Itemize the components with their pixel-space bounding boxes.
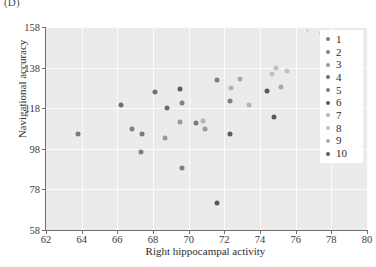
legend-item-label: 5 xyxy=(336,85,342,96)
legend-marker-icon xyxy=(326,101,330,105)
data-point xyxy=(200,119,205,124)
legend: 12345678910 xyxy=(320,30,363,163)
legend-item-label: 1 xyxy=(336,34,342,45)
data-point xyxy=(279,84,284,89)
legend-item-label: 10 xyxy=(336,148,347,159)
gridline-vertical xyxy=(260,27,261,230)
panel-label: (D) xyxy=(4,0,20,8)
data-point xyxy=(76,131,81,136)
data-point xyxy=(272,115,277,120)
data-point xyxy=(229,85,234,90)
legend-item-label: 7 xyxy=(336,110,342,121)
y-axis-tick xyxy=(42,230,46,231)
data-point xyxy=(284,68,289,73)
stray-speck xyxy=(306,29,309,32)
data-point xyxy=(138,149,143,154)
x-axis-tick-label: 72 xyxy=(219,234,230,245)
x-axis-tick-label: 64 xyxy=(76,234,87,245)
x-axis-title: Right hippocampal activity xyxy=(45,245,366,257)
gridline-vertical xyxy=(189,27,190,230)
x-axis-tick-label: 78 xyxy=(326,234,337,245)
y-axis-tick-label: 98 xyxy=(30,143,41,154)
legend-marker-icon xyxy=(326,88,330,92)
data-point xyxy=(140,131,145,136)
gridline-horizontal xyxy=(46,68,367,69)
legend-item[interactable]: 4 xyxy=(323,71,361,84)
legend-item-label: 8 xyxy=(336,123,342,134)
legend-item[interactable]: 1 xyxy=(323,33,361,46)
data-point xyxy=(227,131,232,136)
gridline-vertical xyxy=(224,27,225,230)
y-axis-tick xyxy=(42,189,46,190)
y-axis-title: Navigational accuracy xyxy=(16,9,28,169)
scatter-plot-figure: (D) 62646668707274767880587898118138158 … xyxy=(0,0,376,267)
data-point xyxy=(247,103,252,108)
legend-item[interactable]: 8 xyxy=(323,122,361,135)
data-point xyxy=(215,77,220,82)
legend-item[interactable]: 9 xyxy=(323,135,361,148)
legend-item[interactable]: 6 xyxy=(323,96,361,109)
data-point xyxy=(118,103,123,108)
y-axis-tick xyxy=(42,68,46,69)
legend-marker-icon xyxy=(326,113,330,117)
data-point xyxy=(274,65,279,70)
data-point xyxy=(163,135,168,140)
legend-marker-icon xyxy=(326,50,330,54)
x-axis-tick-label: 74 xyxy=(255,234,266,245)
x-axis-tick-label: 70 xyxy=(183,234,194,245)
data-point xyxy=(152,89,157,94)
gridline-vertical xyxy=(117,27,118,230)
x-axis-tick-label: 68 xyxy=(148,234,159,245)
data-point xyxy=(177,120,182,125)
data-point xyxy=(270,71,275,76)
y-axis-tick xyxy=(42,27,46,28)
legend-item-label: 4 xyxy=(336,72,342,83)
legend-marker-icon xyxy=(326,75,330,79)
legend-marker-icon xyxy=(326,63,330,67)
legend-marker-icon xyxy=(326,37,330,41)
gridline-horizontal xyxy=(46,149,367,150)
legend-item[interactable]: 10 xyxy=(323,147,361,160)
data-point xyxy=(215,200,220,205)
plot-area: 62646668707274767880587898118138158 xyxy=(45,27,367,231)
legend-item-label: 9 xyxy=(336,135,342,146)
data-point xyxy=(177,86,182,91)
legend-item[interactable]: 5 xyxy=(323,84,361,97)
y-axis-tick xyxy=(42,108,46,109)
x-axis-tick-label: 76 xyxy=(290,234,301,245)
legend-item[interactable]: 3 xyxy=(323,58,361,71)
legend-item[interactable]: 7 xyxy=(323,109,361,122)
data-point xyxy=(238,76,243,81)
data-point xyxy=(193,121,198,126)
data-point xyxy=(179,101,184,106)
legend-marker-icon xyxy=(326,126,330,130)
legend-marker-icon xyxy=(326,152,330,156)
gridline-horizontal xyxy=(46,189,367,190)
data-point xyxy=(129,126,134,131)
gridline-horizontal xyxy=(46,108,367,109)
data-point xyxy=(165,106,170,111)
data-point xyxy=(179,166,184,171)
y-axis-tick-label: 78 xyxy=(30,184,41,195)
x-axis-tick-label: 66 xyxy=(112,234,123,245)
legend-marker-icon xyxy=(326,139,330,143)
x-axis-tick-label: 80 xyxy=(362,234,373,245)
data-point xyxy=(227,99,232,104)
legend-item-label: 3 xyxy=(336,59,342,70)
gridline-horizontal xyxy=(46,27,367,28)
legend-item-label: 2 xyxy=(336,47,342,58)
x-axis-tick-label: 62 xyxy=(41,234,52,245)
legend-item[interactable]: 2 xyxy=(323,46,361,59)
data-point xyxy=(265,88,270,93)
data-point xyxy=(202,126,207,131)
gridline-vertical xyxy=(367,27,368,230)
gridline-vertical xyxy=(82,27,83,230)
legend-item-label: 6 xyxy=(336,97,342,108)
gridline-vertical xyxy=(296,27,297,230)
gridline-vertical xyxy=(153,27,154,230)
y-axis-tick-label: 58 xyxy=(30,225,41,236)
y-axis-tick xyxy=(42,149,46,150)
